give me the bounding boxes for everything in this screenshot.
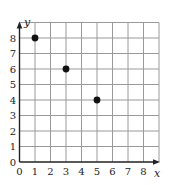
- y-tick-label: 2: [10, 126, 16, 137]
- y-tick-label: 0: [10, 157, 16, 168]
- y-tick-label: 5: [10, 79, 16, 90]
- axes: [17, 22, 160, 165]
- tick-labels: 012345678012345678: [10, 33, 147, 178]
- x-tick-label: 8: [140, 166, 146, 177]
- x-tick-label: 5: [94, 166, 100, 177]
- x-tick-label: 7: [125, 166, 131, 177]
- x-tick-label: 2: [47, 166, 53, 177]
- data-point: [63, 66, 70, 73]
- y-axis-label: y: [23, 16, 31, 29]
- y-tick-label: 3: [10, 110, 16, 121]
- x-tick-label: 3: [63, 166, 69, 177]
- scatter-chart: 012345678012345678 x y: [0, 0, 169, 185]
- y-tick-label: 7: [10, 48, 16, 59]
- x-tick-label: 0: [16, 166, 22, 177]
- grid-lines: [20, 23, 160, 163]
- x-tick-label: 6: [109, 166, 115, 177]
- y-tick-label: 4: [10, 95, 16, 106]
- y-tick-label: 6: [10, 64, 16, 75]
- x-axis-label: x: [154, 167, 161, 180]
- x-tick-label: 1: [32, 166, 38, 177]
- data-point: [94, 97, 101, 104]
- y-tick-label: 1: [10, 141, 16, 152]
- x-tick-label: 4: [78, 166, 84, 177]
- data-point: [32, 35, 39, 42]
- y-tick-label: 8: [10, 33, 16, 44]
